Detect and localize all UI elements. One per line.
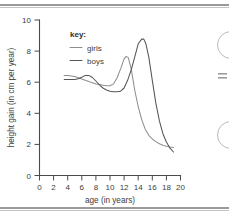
x-tick-label-10: 10	[106, 183, 115, 192]
legend-entry-girls: girls	[70, 44, 102, 53]
x-tick-label-20: 20	[176, 183, 185, 192]
y-tick-label-2: 2	[27, 140, 32, 149]
y-tick-label-0: 0	[27, 172, 32, 181]
x-tick-label-6: 6	[80, 183, 85, 192]
data-series-group	[64, 39, 173, 152]
x-axis-ticks	[40, 176, 181, 181]
page-root: 10 8 6 4 2 0 0	[0, 0, 229, 218]
y-axis-title: height gain (in cm per year)	[7, 47, 16, 147]
x-axis-title: age (in years)	[85, 196, 135, 205]
x-tick-label-0: 0	[37, 183, 42, 192]
legend-label-girls: girls	[87, 44, 102, 53]
y-axis-ticks	[35, 20, 40, 176]
x-tick-label-8: 8	[94, 183, 99, 192]
page-divider-top	[0, 4, 229, 6]
legend-label-boys: boys	[87, 57, 104, 66]
x-tick-label-16: 16	[148, 183, 157, 192]
series-line-girls	[64, 56, 173, 147]
legend-title: key:	[70, 30, 86, 39]
y-tick-label-10: 10	[22, 16, 31, 25]
series-line-boys	[64, 39, 173, 152]
margin-equals-mark	[218, 72, 227, 79]
height-gain-line-chart: 10 8 6 4 2 0 0	[0, 9, 229, 205]
chart-legend: key: girls boys	[70, 30, 104, 66]
x-tick-label-4: 4	[65, 183, 70, 192]
x-tick-label-14: 14	[134, 183, 143, 192]
page-divider-top-hairline	[0, 7, 229, 8]
page-divider-bottom-hairline	[0, 210, 229, 211]
y-tick-label-8: 8	[27, 47, 32, 56]
x-tick-label-18: 18	[162, 183, 171, 192]
x-tick-label-12: 12	[120, 183, 129, 192]
x-tick-label-2: 2	[51, 183, 56, 192]
page-divider-bottom	[0, 207, 229, 209]
y-tick-label-6: 6	[27, 78, 32, 87]
chart-canvas: 10 8 6 4 2 0 0	[0, 9, 229, 205]
y-axis-tick-labels: 10 8 6 4 2 0	[22, 16, 31, 181]
legend-entry-boys: boys	[70, 57, 104, 66]
y-tick-label-4: 4	[27, 109, 32, 118]
x-axis-tick-labels: 0 2 4 6 8 10 12 14 16 18 20	[37, 183, 185, 192]
axis-lines	[40, 20, 181, 176]
